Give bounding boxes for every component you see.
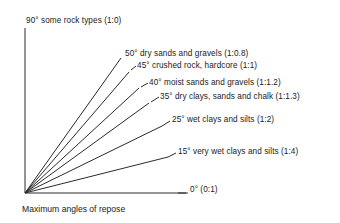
figure-caption: Maximum angles of repose xyxy=(22,204,125,215)
ray-line-25 xyxy=(25,126,162,193)
ray-label-15: 15° very wet clays and silts (1:4) xyxy=(178,147,298,157)
ray-label-40: 40° moist sands and gravels (1:1.2) xyxy=(149,78,281,88)
ray-label-90: 90° some rock types (1:0) xyxy=(26,16,121,26)
leader-line-45 xyxy=(131,66,136,70)
leader-line-25 xyxy=(162,121,170,126)
ray-label-50: 50° dry sands and gravels (1:0.8) xyxy=(125,49,248,59)
ray-line-45 xyxy=(25,72,129,193)
leader-line-40 xyxy=(141,83,148,87)
ray-label-45: 45° crushed rock, hardcore (1:1) xyxy=(137,61,257,71)
leader-line-35 xyxy=(151,97,159,102)
ray-label-35: 35° dry clays, sands and chalk (1:1.3) xyxy=(160,92,300,102)
repose-ray-lines xyxy=(0,0,340,223)
angles-of-repose-diagram: 90° some rock types (1:0) 50° dry sands … xyxy=(0,0,340,223)
ray-line-40 xyxy=(25,88,139,193)
ray-label-25: 25° wet clays and silts (1:2) xyxy=(172,115,274,125)
leader-line-15 xyxy=(168,153,176,157)
ray-label-0: 0° (0:1) xyxy=(190,185,218,195)
ray-line-35 xyxy=(25,103,149,193)
